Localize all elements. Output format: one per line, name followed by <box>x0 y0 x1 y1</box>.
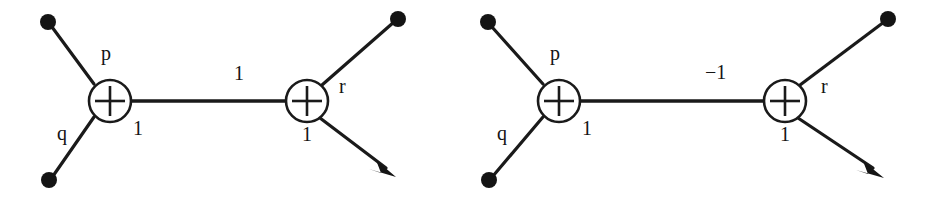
signal-flow-graph-right: p q 1 −1 r 1 <box>469 0 939 198</box>
label-branch-r: r <box>821 76 828 96</box>
terminal-dot-top-right <box>880 11 896 27</box>
arrow-head-icon <box>369 160 396 177</box>
terminal-dot-top-right <box>390 11 406 27</box>
terminal-dot-top-left <box>40 14 56 30</box>
figure-root: p q 1 1 r 1 p q 1 −1 r 1 <box>0 0 939 198</box>
terminal-dot-bottom-left <box>481 172 497 188</box>
label-gain-right-out: 1 <box>302 124 312 144</box>
left-diagram-canvas <box>0 0 470 198</box>
label-branch-q: q <box>497 123 507 143</box>
label-branch-r: r <box>339 76 346 96</box>
arrow-head-icon <box>856 161 884 178</box>
label-gain-left-out: 1 <box>582 118 592 138</box>
edge-p-input <box>52 27 94 84</box>
label-branch-q: q <box>57 123 67 143</box>
label-branch-p: p <box>101 43 111 63</box>
label-gain-left-out: 1 <box>133 118 143 138</box>
label-gain-middle: −1 <box>705 62 726 82</box>
right-diagram-canvas <box>469 0 939 198</box>
label-gain-right-out: 1 <box>780 124 790 144</box>
edge-output-arrow-line <box>798 118 873 168</box>
terminal-dot-bottom-left <box>41 172 57 188</box>
label-gain-middle: 1 <box>234 63 244 83</box>
edge-p-input <box>492 27 543 84</box>
edge-r-output <box>800 22 884 85</box>
signal-flow-graph-left: p q 1 1 r 1 <box>0 0 470 198</box>
terminal-dot-top-left <box>480 14 496 30</box>
label-branch-p: p <box>550 43 560 63</box>
edge-output-arrow-line <box>320 118 386 168</box>
edge-r-output <box>322 22 394 85</box>
